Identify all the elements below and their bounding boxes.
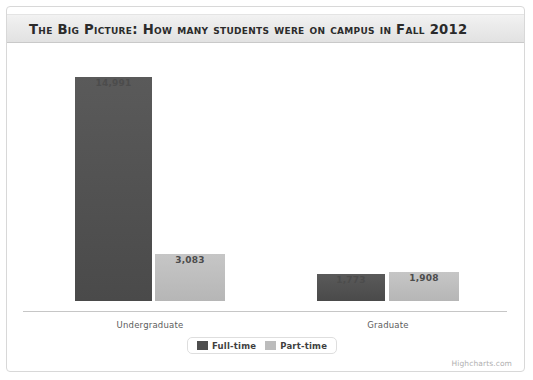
legend-swatch-icon-part-time [265,341,276,350]
legend-swatch-icon-full-time [197,341,208,350]
chart-title-band: The Big Picture: How many students were … [7,14,524,43]
x-axis-label-undergraduate: Undergraduate [75,320,225,330]
legend-label-full-time: Full-time [212,341,256,351]
bar-label-undergraduate-part-time: 3,083 [155,255,225,265]
chart-credits-link[interactable]: Highcharts.com [452,359,512,368]
bar-label-graduate-part-time: 1,908 [389,273,459,283]
legend-item-full-time[interactable]: Full-time [197,341,256,351]
legend-label-part-time: Part-time [280,341,327,351]
x-axis-label-graduate: Graduate [317,320,459,330]
bar-undergraduate-full-time[interactable] [75,77,152,301]
bar-label-graduate-full-time: 1,773 [317,275,385,285]
legend-item-part-time[interactable]: Part-time [265,341,327,351]
x-axis-line [23,311,507,312]
bar-label-undergraduate-full-time: 14,991 [75,78,152,88]
chart-widget: The Big Picture: How many students were … [6,6,525,372]
chart-legend: Full-time Part-time [187,337,337,354]
page-title: The Big Picture: How many students were … [29,16,468,43]
